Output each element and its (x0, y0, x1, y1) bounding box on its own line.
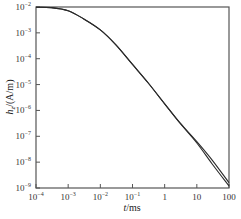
x-tick-label: 10 (192, 192, 202, 202)
curve-1-line (36, 7, 229, 186)
x-tick-label: 10−2 (93, 191, 108, 202)
x-tick-label: 10−3 (60, 191, 75, 202)
y-tick-label: 10−7 (16, 130, 31, 141)
plot-border (36, 7, 229, 188)
x-tick-label: 10−1 (125, 191, 140, 202)
x-axis-ticks: 10−410−310−210−1110100 (28, 184, 236, 202)
x-tick-label: 1 (162, 192, 167, 202)
y-tick-label: 10−3 (16, 27, 31, 38)
y-tick-label: 10−6 (16, 104, 31, 115)
x-tick-label: 100 (222, 192, 236, 202)
series-lines (36, 7, 229, 186)
chart: 10−410−310−210−1110100 10−210−310−410−51… (0, 0, 241, 219)
y-tick-label: 10−2 (16, 1, 31, 12)
y-tick-label: 10−4 (16, 53, 31, 64)
x-axis-label: t/ms (123, 202, 140, 213)
curve-2-line (36, 7, 229, 183)
plot-frame (36, 7, 229, 188)
x-tick-label: 10−4 (28, 191, 43, 202)
y-tick-label: 10−8 (16, 156, 31, 167)
y-tick-label: 10−5 (16, 79, 31, 90)
